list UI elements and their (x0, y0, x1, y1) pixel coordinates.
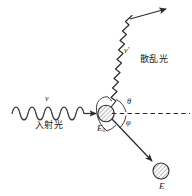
target-energy-subscript: 0 (103, 127, 106, 133)
compton-scattering-figure: ν 入射光 ν′ 散乱光 E0 E θ φ (0, 0, 192, 196)
recoil-particle (153, 163, 169, 179)
target-particle (98, 105, 114, 121)
theta-angle-label: θ (127, 97, 131, 106)
incident-frequency-label: ν (45, 95, 49, 103)
scattered-frequency-label: ν′ (124, 47, 129, 55)
scattered-light-label: 散乱光 (140, 55, 168, 64)
target-energy-label: E0 (97, 124, 105, 134)
phi-angle-label: φ (126, 118, 131, 127)
incident-wave (12, 107, 96, 120)
recoil-energy-label: E (159, 182, 165, 191)
diagram-canvas (0, 0, 192, 196)
recoil-arrow (112, 119, 152, 161)
incident-light-label: 入射光 (35, 121, 63, 130)
